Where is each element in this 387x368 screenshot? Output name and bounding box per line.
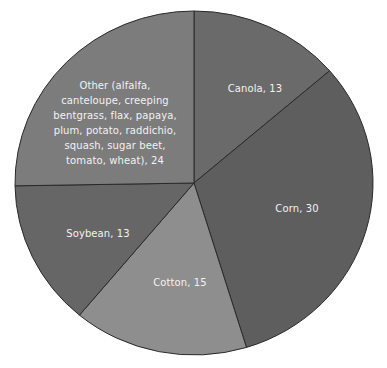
label-other: Other (alfalfa, canteloupe, creeping ben… <box>53 78 176 168</box>
label-canola: Canola, 13 <box>228 81 283 96</box>
label-corn: Corn, 30 <box>275 201 318 216</box>
pie-chart <box>0 0 387 368</box>
label-cotton: Cotton, 15 <box>153 275 206 290</box>
pie-slices <box>15 11 373 355</box>
label-soybean: Soybean, 13 <box>66 226 130 241</box>
